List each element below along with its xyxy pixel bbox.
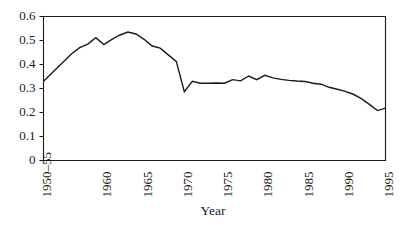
y-tick-label: 0.1 xyxy=(19,128,35,143)
x-tick-label: 1975 xyxy=(220,172,235,198)
x-axis-title: Year xyxy=(201,203,226,218)
x-tick-label: 1990 xyxy=(341,172,356,198)
x-axis-tick-labels: 1950–5519601965197019751980198519901995 xyxy=(39,152,396,198)
y-tick-label: 0.6 xyxy=(19,8,36,23)
y-axis-ticks xyxy=(40,17,44,161)
x-tick-label: 1960 xyxy=(99,172,114,198)
x-tick-label: 1965 xyxy=(140,172,155,198)
x-tick-label: 1950–55 xyxy=(39,152,54,198)
y-axis-tick-labels: 0.60.50.40.30.20.10 xyxy=(19,8,36,167)
x-tick-label: 1985 xyxy=(301,172,316,198)
x-tick-label: 1995 xyxy=(381,172,396,198)
line-chart: 0.60.50.40.30.20.10 1950–551960196519701… xyxy=(0,0,402,229)
y-tick-label: 0.5 xyxy=(19,32,35,47)
y-tick-label: 0.4 xyxy=(19,56,36,71)
chart-figure: 0.60.50.40.30.20.10 1950–551960196519701… xyxy=(0,0,402,229)
data-series-group xyxy=(44,32,386,110)
y-tick-label: 0 xyxy=(29,152,36,167)
x-tick-label: 1980 xyxy=(260,172,275,198)
data-line-series-1 xyxy=(44,32,386,110)
y-tick-label: 0.2 xyxy=(19,104,35,119)
y-tick-label: 0.3 xyxy=(19,80,35,95)
x-tick-label: 1970 xyxy=(180,172,195,198)
